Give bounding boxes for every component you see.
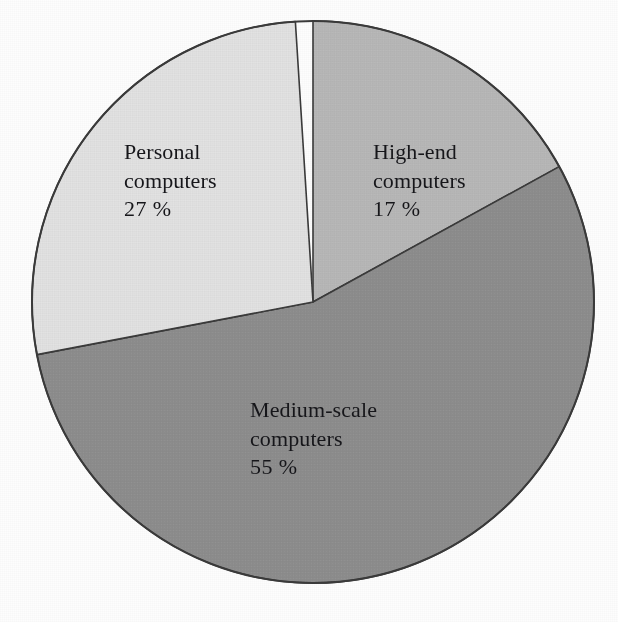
slice-label-medium-scale-line2: computers — [250, 425, 377, 454]
slice-label-personal-computers: Personal computers 27 % — [124, 138, 217, 224]
pie-chart-figure: Personal computers 27 % High-end compute… — [0, 0, 618, 622]
slice-label-personal-line1: Personal — [124, 138, 217, 167]
slice-label-high-end-computers: High-end computers 17 % — [373, 138, 466, 224]
slice-value-high-end-computers: 17 % — [373, 195, 466, 224]
pie-texture-overlay — [32, 21, 594, 583]
slice-label-high-end-line1: High-end — [373, 138, 466, 167]
clipped-caption-text: · · — [232, 608, 246, 616]
pie-chart-canvas — [0, 0, 618, 622]
slice-value-personal-computers: 27 % — [124, 195, 217, 224]
slice-label-medium-scale-computers: Medium-scale computers 55 % — [250, 396, 377, 482]
slice-value-medium-scale-computers: 55 % — [250, 453, 377, 482]
slice-label-medium-scale-line1: Medium-scale — [250, 396, 377, 425]
slice-label-personal-line2: computers — [124, 167, 217, 196]
clipped-caption-strip: · · — [0, 608, 618, 622]
slice-label-high-end-line2: computers — [373, 167, 466, 196]
